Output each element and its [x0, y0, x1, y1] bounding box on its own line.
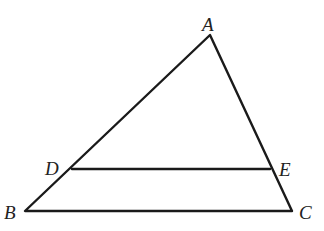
label-a: A: [200, 14, 214, 35]
triangle-diagram: A D E B C: [0, 0, 324, 231]
label-d: D: [44, 158, 59, 179]
label-e: E: [278, 159, 291, 180]
label-c: C: [299, 202, 312, 223]
label-b: B: [4, 202, 16, 223]
triangle-abc: [25, 35, 292, 211]
